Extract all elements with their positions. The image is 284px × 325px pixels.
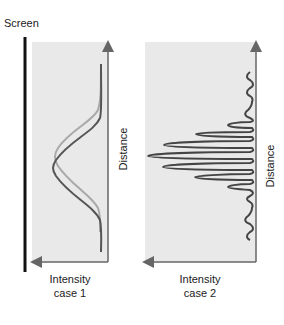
panel2-x-label: Intensity case 2	[170, 272, 230, 300]
panel1-x-title: Intensity	[40, 272, 100, 286]
panel2-x-sub: case 2	[170, 286, 230, 300]
panel1-y-label: Distance	[117, 119, 129, 179]
diffraction-diagram: Screen Intensity case 1 Intensity case 2…	[0, 0, 284, 325]
panel1-x-sub: case 1	[40, 286, 100, 300]
panel2-y-label: Distance	[264, 136, 276, 196]
screen-label: Screen	[4, 16, 39, 30]
panel2-x-title: Intensity	[170, 272, 230, 286]
panel1-background	[32, 42, 108, 262]
panel1-x-label: Intensity case 1	[40, 272, 100, 300]
